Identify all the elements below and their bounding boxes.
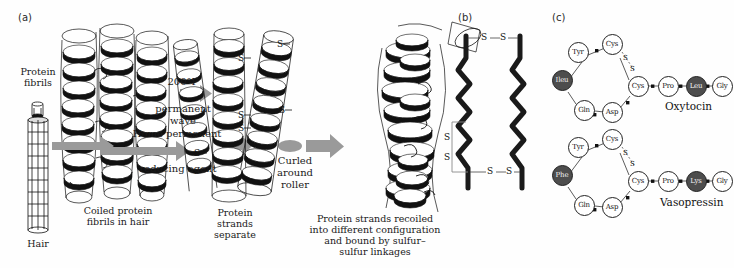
residue-tyr-label: Tyr — [572, 144, 583, 151]
residue-lys: Lys — [686, 171, 707, 192]
arrow-label-reducing-agent: reducing agent — [118, 163, 238, 175]
residue-ileu: Ileu — [552, 70, 573, 91]
residue-ileu-label: Ileu — [556, 77, 569, 84]
residue-asp-label: Asp — [606, 109, 619, 116]
residue-cys: Cys — [628, 76, 649, 97]
residue-pro-label: Pro — [662, 178, 674, 185]
panel-b-s-top-right: S — [500, 32, 506, 42]
arrow-label-permanent-wave: permanent wave — [140, 103, 226, 127]
arrow-label-curled-roller: Curled around roller — [260, 155, 330, 191]
residue-tyr-label: Tyr — [572, 49, 583, 56]
vasopressin-s-lower: S — [630, 160, 635, 168]
peptide-name-oxytocin: Oxytocin — [665, 100, 712, 112]
residue-pro-label: Pro — [662, 83, 674, 90]
residue-tyr: Tyr — [568, 137, 589, 158]
panel-b-s-top-left: S — [481, 32, 487, 42]
residue-lys-label: Lys — [690, 178, 701, 185]
residue-phe-label: Phe — [556, 172, 569, 179]
residue-gln-label: Gln — [578, 107, 590, 114]
residue-gly: Gly — [712, 171, 733, 192]
residue-asp: Asp — [602, 102, 623, 123]
panel-b-bracket-s-bottom: S — [444, 152, 450, 162]
sulfur-label-a4: S — [194, 148, 200, 158]
residue-cys: Cys — [628, 171, 649, 192]
residue-cys-label: Cys — [632, 178, 644, 185]
residue-cys-label: Cys — [632, 83, 644, 90]
panel-b-s-bottom-left: S — [487, 166, 493, 176]
residue-leu-label: Leu — [690, 83, 703, 90]
arrow-label-200f: 200°F — [148, 76, 218, 88]
keratin-strand-left — [458, 36, 470, 188]
residue-tyr: Tyr — [568, 42, 589, 63]
sulfur-label-a2: S — [238, 110, 244, 120]
sulfur-label-a6: S — [279, 105, 285, 115]
residue-cys: Cys — [602, 34, 623, 55]
residue-gly-label: Gly — [716, 83, 727, 90]
residue-gln-label: Gln — [578, 202, 590, 209]
oxytocin-s-upper: S — [623, 54, 628, 62]
protein-structure-figure: (a) Protein fibrils Hair — [0, 0, 734, 268]
residue-cys: Cys — [602, 129, 623, 150]
keratin-strand-right — [512, 36, 524, 188]
residue-gly-label: Gly — [716, 178, 727, 185]
residue-pro: Pro — [658, 76, 679, 97]
residue-gln: Gln — [574, 195, 595, 216]
peptide-name-vasopressin: Vasopressin — [660, 196, 723, 208]
residue-cys-label: Cys — [606, 136, 618, 143]
panel-b-s-bottom-right: S — [506, 166, 512, 176]
sulfur-label-a3: S — [238, 123, 244, 133]
sulfur-label-a5: S — [277, 39, 283, 49]
residue-leu: Leu — [686, 76, 707, 97]
residue-phe: Phe — [552, 165, 573, 186]
residue-gly: Gly — [712, 76, 733, 97]
panel-label-c: (c) — [552, 12, 565, 23]
panel-b-bracket-s-top: S — [444, 132, 450, 142]
residue-pro: Pro — [658, 171, 679, 192]
residue-cys-label: Cys — [606, 41, 618, 48]
residue-gln: Gln — [574, 100, 595, 121]
caption-coiled-fibrils: Coiled protein fibrils in hair — [58, 205, 178, 227]
sulfur-label-a1: S — [238, 53, 244, 63]
vasopressin-s-upper: S — [623, 149, 628, 157]
panel-label-b: (b) — [458, 12, 472, 23]
arrow-label-home-permanent: Home permanent — [112, 128, 242, 140]
caption-strands-recoiled: Protein strands recoiled into different … — [300, 213, 450, 257]
caption-strands-separate: Protein strands separate — [200, 207, 270, 240]
residue-asp: Asp — [602, 197, 623, 218]
hair-shaft-icon — [28, 102, 48, 233]
residue-asp-label: Asp — [606, 204, 619, 211]
oxytocin-s-lower: S — [630, 65, 635, 73]
